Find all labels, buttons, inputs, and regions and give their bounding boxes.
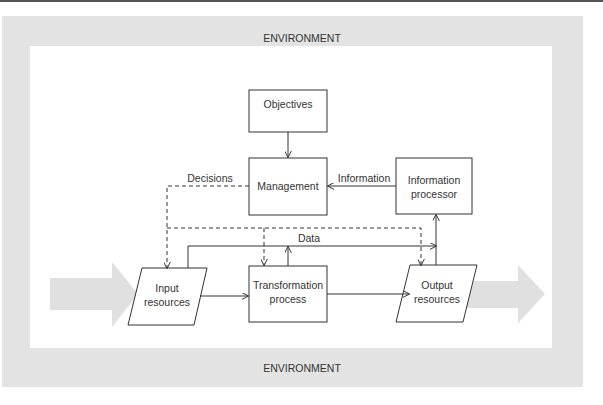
- objectives-box: [249, 90, 327, 132]
- info-processor-label-1: Information: [408, 174, 461, 186]
- input-flow-arrow: [50, 262, 138, 327]
- info-processor-box: [396, 158, 472, 214]
- edge-data: [188, 246, 436, 268]
- info-processor-label-2: processor: [411, 188, 458, 200]
- edge-decisions-input: [167, 186, 249, 268]
- system-diagram: ENVIRONMENT ENVIRONMENT Objectives Manag…: [0, 0, 603, 405]
- input-label-1: Input: [155, 282, 178, 294]
- management-label: Management: [257, 180, 318, 192]
- edge-label-information: Information: [338, 172, 391, 184]
- objectives-label: Objectives: [263, 98, 312, 110]
- edge-label-data: Data: [298, 232, 320, 244]
- transformation-label-2: process: [270, 293, 307, 305]
- edge-label-decisions: Decisions: [187, 172, 233, 184]
- transformation-label-1: Transformation: [253, 279, 323, 291]
- output-label-1: Output: [421, 279, 453, 291]
- environment-top-label: ENVIRONMENT: [263, 32, 341, 44]
- output-label-2: resources: [414, 293, 460, 305]
- environment-bottom-label: ENVIRONMENT: [263, 362, 341, 374]
- input-label-2: resources: [144, 296, 190, 308]
